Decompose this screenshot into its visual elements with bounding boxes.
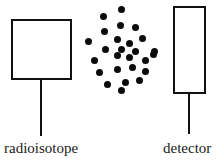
- radiation-particle-dot: [142, 57, 149, 64]
- radiation-particle-dot: [118, 6, 125, 13]
- radiation-particle-dot: [132, 24, 139, 31]
- radiation-particle-dot: [132, 48, 139, 55]
- radiation-particle-dot: [126, 40, 133, 47]
- radiation-particle-dot: [118, 87, 125, 94]
- radioisotope-stand-stem: [40, 79, 42, 136]
- radiation-particle-dot: [114, 52, 121, 59]
- detector-box: [173, 6, 206, 94]
- radiation-particle-dot: [139, 35, 146, 42]
- radiation-particle-dot: [117, 22, 124, 29]
- radiation-particle-dot: [118, 46, 125, 53]
- radiation-particle-dot: [151, 48, 158, 55]
- radiation-particle-dot: [126, 54, 133, 61]
- radiation-particle-dot: [114, 66, 121, 73]
- radiation-particle-dot: [104, 81, 111, 88]
- radiation-particle-dot: [85, 38, 92, 45]
- radiation-particle-dot: [142, 68, 149, 75]
- radiation-particle-dot: [100, 13, 107, 20]
- radiation-particle-dot: [114, 36, 121, 43]
- radiation-particle-dot: [96, 69, 103, 76]
- radioisotope-source-box: [11, 19, 72, 80]
- radiation-particle-dot: [102, 46, 109, 53]
- radiation-particle-dot: [136, 77, 143, 84]
- radiation-particle-dot: [122, 79, 129, 86]
- radiation-particle-dot: [129, 64, 136, 71]
- radioisotope-label: radioisotope: [4, 141, 78, 156]
- radiation-particle-dot: [150, 51, 157, 58]
- detector-label: detector: [163, 141, 211, 156]
- radiation-particle-dot: [91, 57, 98, 64]
- radioisotope-detector-diagram: radioisotope detector: [0, 0, 220, 161]
- detector-stand-stem: [188, 93, 190, 134]
- radiation-particle-dot: [101, 28, 108, 35]
